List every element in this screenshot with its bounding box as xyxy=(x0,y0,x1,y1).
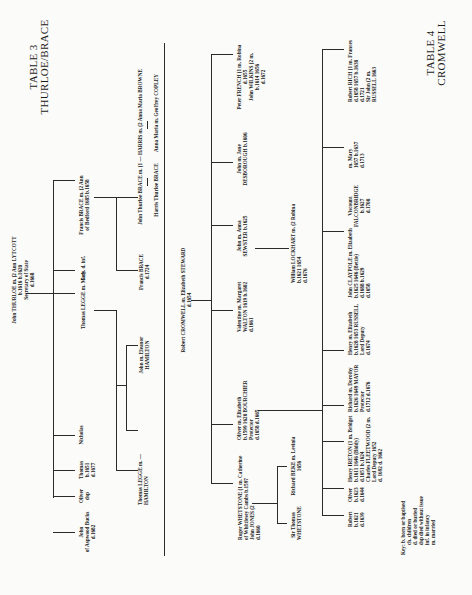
brace-grandchild-anna-maria: Anna Maria m. Geoffrey COPLEY xyxy=(153,68,159,158)
child-thomas: Thomas b.1651 d.1677 xyxy=(78,455,96,485)
table3-title-name: THURLOE/BRACE xyxy=(39,2,50,132)
child-valentine-walton: Valentine m. Margaret WALTON 1619 b.1602… xyxy=(236,272,254,332)
child-peter-french: Peter FRENCH (1 m. Robina d.1655 John WI… xyxy=(236,42,266,112)
branch-line xyxy=(116,197,138,198)
branch-line xyxy=(53,435,75,436)
key-item: m. married xyxy=(430,495,436,555)
legge-marriage-line xyxy=(94,310,116,311)
child-oliver: Oliver dsp xyxy=(78,484,90,508)
branch-line xyxy=(277,466,287,467)
table-divider xyxy=(164,43,165,556)
person-dates: d.1682 xyxy=(90,509,96,555)
person-dates: d.1677 xyxy=(90,455,96,485)
person-note: dsp xyxy=(84,484,90,508)
branch-line xyxy=(211,162,233,163)
cromwell-children-spine xyxy=(211,54,212,484)
child-william-lockhart: William LOCKHART m. (2 Robina b.1621 165… xyxy=(290,193,308,283)
person-dates: d.1700 xyxy=(365,180,371,232)
spouse-name: HAMILTON xyxy=(144,330,150,380)
person-dates: RUSSELL 1663 xyxy=(371,42,377,102)
spouse-name: DESBOROUGH b.1606 xyxy=(242,130,248,188)
branch-line xyxy=(322,231,344,232)
person-dates: d. 1692 d. 1662 xyxy=(377,408,383,482)
person-dates: d.1712 d.1676 xyxy=(365,354,371,412)
branch-line xyxy=(211,483,233,484)
person-dates: d.1713 xyxy=(359,136,365,168)
oliver-child-richard: Richard m. Dorothy b.1626 1649 MAYOR Pro… xyxy=(347,354,371,412)
person-dates: d.1654 xyxy=(186,230,192,370)
oliver-marriage-line xyxy=(258,410,322,411)
cromwell-root: Robert CROMWELL m. Elizabeth STEWARD d.1… xyxy=(180,230,192,370)
brace-spine xyxy=(116,197,117,270)
branch-line xyxy=(116,470,138,471)
oliver-child-frances: Robert RICH (1 m. Frances d.1658 1657 b.… xyxy=(347,42,377,102)
person-dates: of Bedford 1685 b.1658 xyxy=(84,170,90,240)
abbreviation-key: Key: b. born or baptised ch. children d.… xyxy=(400,495,436,555)
legge-sub-spine xyxy=(126,345,127,430)
oliver-child-henry: Henry m. Elizabeth b.1628 1653 RUSSELL L… xyxy=(347,299,371,355)
person-dates: d.1672 xyxy=(260,42,266,112)
person-dates: d.1660 xyxy=(255,460,261,540)
child-john-desborough: John m. Jane DESBOROUGH b.1606 xyxy=(236,130,248,188)
branch-line xyxy=(277,523,287,524)
branch-line xyxy=(116,385,126,386)
whetstone-spine xyxy=(277,466,278,523)
branch-line xyxy=(322,49,344,50)
branch-line xyxy=(116,270,138,271)
table4-title: TABLE 4 CROMWELL xyxy=(425,3,447,103)
lockhart-link xyxy=(255,248,289,249)
spouse-name: SEWSTER b.1625 xyxy=(242,210,248,262)
branch-line xyxy=(322,405,344,406)
person-dates: d.1668 xyxy=(29,235,35,325)
person-note: 5 ch. d. inf. xyxy=(80,253,86,283)
branch-line xyxy=(211,424,233,425)
person-dates: d.1639 xyxy=(359,507,365,527)
person-dates: d.1724 xyxy=(144,252,150,292)
thurloe-children-spine xyxy=(53,180,54,498)
child-roger-whetstone: Roger WHETSTONE (1 m. Catherine of Whitt… xyxy=(237,460,261,540)
person-dates: d.1676 xyxy=(302,193,308,283)
spouse-name: HAMILTON xyxy=(143,445,149,505)
person-dates: d.1661 xyxy=(248,272,254,332)
branch-line xyxy=(322,441,344,442)
branch-line xyxy=(53,470,75,471)
child-five-infants: 5 ch. d. inf. xyxy=(80,253,86,283)
branch-line xyxy=(53,293,75,294)
person-name: Harris Thurloe BRACE xyxy=(153,160,159,220)
legge-spine xyxy=(116,310,117,470)
child-francis-brace: Francis BRACE m. (2 Ann of Bedford 1685 … xyxy=(78,170,90,240)
oliver-child-mary: m. Mary 1657 b.1637 d.1713 xyxy=(347,136,365,168)
person-dates: d.1644 xyxy=(359,482,365,502)
oliver-child-robert: Robert b.1621 d.1639 xyxy=(347,507,365,527)
spouse-viscount-falconbridge: Viscount FALCONBRIDGE b.1627 d.1700 xyxy=(347,180,371,232)
thurloe-root: John THURLOE m. (2 Ann LYTCOTT b.1616 b.… xyxy=(11,235,35,325)
branch-line xyxy=(322,515,344,516)
oliver-child-elizabeth: John CLAYPOLE m. Elizabeth b.1625 1646 (… xyxy=(347,234,371,298)
oliver-child-oliver: Oliver b.1623 d.1644 xyxy=(347,482,365,502)
cromwell-marriage-line xyxy=(191,300,211,301)
person-surname: WHETSTONE xyxy=(296,510,302,540)
legge-child-john: John m. Eleanor HAMILTON xyxy=(138,330,150,380)
legge-child-thomas: Thomas LEGGE m. — HAMILTON xyxy=(137,445,149,505)
oliver-children-spine xyxy=(322,49,323,516)
descent-tick xyxy=(147,178,148,186)
whetstone-child-richard-beke: Richard BEKE m. Levinia 1656 xyxy=(290,435,302,497)
branch-line xyxy=(322,350,344,351)
branch-line xyxy=(322,147,344,148)
person-dates: d.1674 xyxy=(365,299,371,355)
child-oliver-protector: Oliver m. Elizabeth b.1599 1620 BOURCHIE… xyxy=(236,376,260,440)
person-dates: 1656 xyxy=(296,435,302,497)
child-john: John of Aspwood Bucks d.1682 xyxy=(78,509,96,555)
branch-line xyxy=(53,496,75,497)
branch-line xyxy=(211,54,233,55)
branch-line xyxy=(53,180,75,181)
table3-title: TABLE 3 THURLOE/BRACE xyxy=(28,2,50,132)
person-name: Nicholas xyxy=(78,420,84,450)
branch-line xyxy=(53,532,75,533)
branch-line xyxy=(211,225,233,226)
person-dates: d.1658 d.1665 xyxy=(254,376,260,440)
person-dates: d.1658 xyxy=(365,234,371,298)
branch-line xyxy=(126,345,138,346)
branch-line xyxy=(322,488,344,489)
brace-grandchild-harris: Harris Thurloe BRACE xyxy=(153,160,159,220)
